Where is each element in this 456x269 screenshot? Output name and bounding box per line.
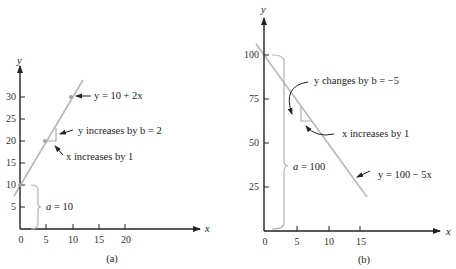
panel-b: 100 75 50 25 0 5 10 15 y x a = 100 y cha… <box>244 4 451 266</box>
xtick-b-5: 5 <box>295 236 300 247</box>
y-axis-label-a: y <box>16 55 22 66</box>
run-label-b: x increases by 1 <box>342 128 409 139</box>
xtick-a-20: 20 <box>121 234 131 245</box>
equation-label-a: y = 10 + 2x <box>94 90 143 101</box>
rise-label-a: y increases by b = 2 <box>78 125 162 136</box>
xtick-a-5: 5 <box>44 234 49 245</box>
y-axis-label-b: y <box>260 4 266 15</box>
xtick-a-10: 10 <box>68 234 78 245</box>
point-a-intercept <box>18 183 22 187</box>
intercept-label-b: a = 100 <box>293 161 325 172</box>
run-label-a: x increases by 1 <box>66 151 133 162</box>
intercept-bracket-b <box>272 55 288 229</box>
panel-a: 30 25 20 15 10 5 0 5 10 15 20 y x a = 10… <box>6 55 210 265</box>
rise-label-b: y changes by b = −5 <box>314 75 399 86</box>
caption-b: (b) <box>358 254 371 266</box>
ytick-a-5: 5 <box>11 201 16 212</box>
rise-arrow-b <box>289 82 308 114</box>
ytick-a-30: 30 <box>6 91 16 102</box>
xtick-b-0: 0 <box>263 236 268 247</box>
ytick-b-25: 25 <box>249 181 259 192</box>
rise-arrow-a <box>60 130 73 134</box>
figure: 30 25 20 15 10 5 0 5 10 15 20 y x a = 10… <box>0 0 456 269</box>
caption-a: (a) <box>106 253 118 265</box>
x-axis-label-b: x <box>445 226 451 237</box>
ytick-a-25: 25 <box>6 113 16 124</box>
intercept-bracket-a <box>31 185 41 229</box>
xtick-a-15: 15 <box>94 234 104 245</box>
ytick-b-50: 50 <box>249 137 259 148</box>
eq-arrow-b <box>357 171 370 177</box>
xtick-a-0: 0 <box>19 234 24 245</box>
ytick-b-100: 100 <box>244 49 259 60</box>
ytick-a-15: 15 <box>6 157 16 168</box>
xtick-b-10: 10 <box>324 236 334 247</box>
run-arrow-a <box>55 146 63 155</box>
intercept-label-a: a = 10 <box>46 201 73 212</box>
run-arrow-b <box>306 126 334 135</box>
ytick-b-75: 75 <box>249 93 259 104</box>
equation-label-b: y = 100 − 5x <box>378 169 433 180</box>
ytick-a-20: 20 <box>6 135 16 146</box>
xtick-b-15: 15 <box>356 236 366 247</box>
ytick-a-10: 10 <box>6 179 16 190</box>
point-a-10-30 <box>69 95 73 99</box>
x-axis-label-a: x <box>204 223 210 234</box>
